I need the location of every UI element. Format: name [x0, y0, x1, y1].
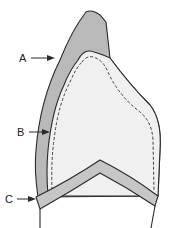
- tooth-diagram: A B C: [0, 0, 171, 228]
- label-c: C: [5, 193, 13, 205]
- label-a: A: [19, 52, 27, 64]
- label-b: B: [17, 126, 24, 138]
- arrow-a-head: [47, 55, 55, 61]
- arrow-c-head: [28, 196, 36, 202]
- root-right: [151, 206, 155, 228]
